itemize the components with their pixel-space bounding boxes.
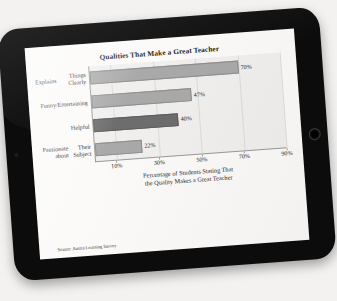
tablet-screen[interactable]: Qualities That Make a Great Teacher Expl…: [25, 28, 310, 259]
home-button[interactable]: [308, 128, 321, 141]
x-tick-label: 70%: [239, 153, 251, 160]
plot-area: 70%47%40%22%: [88, 53, 287, 163]
x-tick-label: 50%: [196, 156, 208, 163]
bar: [93, 113, 179, 132]
bar: [91, 88, 191, 108]
x-tick-label: 10%: [111, 162, 123, 169]
bar-value-label: 22%: [144, 142, 156, 149]
x-tick-label: 30%: [154, 159, 166, 166]
category-axis: ExplainsThings ClearlyFunny/Entertaining…: [34, 67, 95, 167]
x-tick-label: 90%: [281, 150, 293, 157]
bar-series: 70%47%40%22%: [89, 53, 286, 162]
plot-block: ExplainsThings ClearlyFunny/Entertaining…: [34, 52, 292, 166]
bar-value-label: 47%: [193, 91, 205, 98]
bar-chart: Qualities That Make a Great Teacher Expl…: [25, 28, 310, 259]
bar: [95, 140, 143, 156]
source-note: Source: Austin Learning Survey: [57, 243, 116, 252]
tablet-device: Qualities That Make a Great Teacher Expl…: [0, 7, 337, 282]
tablet-frame: Qualities That Make a Great Teacher Expl…: [0, 7, 337, 282]
bar-value-label: 70%: [240, 63, 252, 70]
camera-icon: [14, 153, 18, 157]
bar-value-label: 40%: [180, 116, 192, 123]
category-label: Passionate aboutTheir Subject: [40, 138, 96, 166]
